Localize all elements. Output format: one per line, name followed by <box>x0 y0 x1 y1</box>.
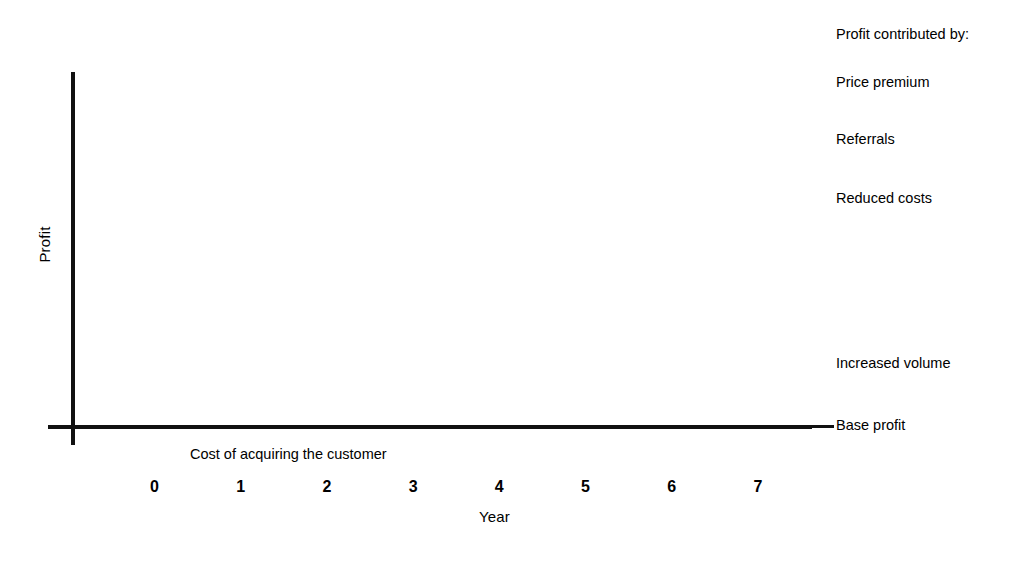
x-tick-label-2: 2 <box>296 478 357 496</box>
legend-item-referrals[interactable]: Referrals <box>836 131 895 147</box>
legend-title: Profit contributed by: <box>836 26 969 42</box>
x-tick-label-0: 0 <box>124 478 185 496</box>
legend-item-base-profit[interactable]: Base profit <box>836 417 905 433</box>
legend-item-price-premium[interactable]: Price premium <box>836 74 929 90</box>
base-profit-leader-line <box>812 425 834 428</box>
x-tick-label-1: 1 <box>210 478 271 496</box>
cost-of-acquisition-annotation: Cost of acquiring the customer <box>190 446 387 462</box>
x-tick-label-4: 4 <box>469 478 530 496</box>
legend-item-increased-volume[interactable]: Increased volume <box>836 355 950 371</box>
x-tick-label-3: 3 <box>383 478 444 496</box>
legend-item-reduced-costs[interactable]: Reduced costs <box>836 190 932 206</box>
x-tick-label-5: 5 <box>555 478 616 496</box>
x-tick-label-6: 6 <box>641 478 702 496</box>
x-tick-label-7: 7 <box>727 478 788 496</box>
profit-by-year-stacked-bar-chart: Profit Year 01234567 Cost of acquiring t… <box>0 0 1024 561</box>
